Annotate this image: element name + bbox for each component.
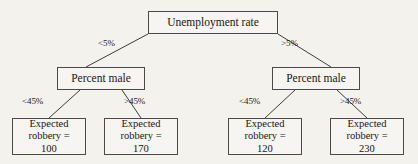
leaf-100-line2: robbery =	[28, 130, 69, 142]
edge-label-right-percent-male-gt-45: >45%	[340, 96, 361, 106]
leaf-expected-robbery-230: Expected robbery = 230	[330, 118, 404, 155]
edge-label-left-percent-male-gt-45: >45%	[124, 96, 145, 106]
edge-root-to-left-percent-male	[86, 34, 148, 67]
leaf-170-value: 170	[120, 143, 161, 155]
leaf-100-value: 100	[28, 143, 69, 155]
leaf-100-line1: Expected	[28, 118, 69, 130]
leaf-expected-robbery-170: Expected robbery = 170	[104, 118, 178, 155]
node-unemployment-rate: Unemployment rate	[148, 11, 278, 34]
leaf-120-value: 120	[244, 143, 285, 155]
leaf-120-line2: robbery =	[244, 130, 285, 142]
leaf-expected-robbery-100: Expected robbery = 100	[12, 118, 86, 155]
node-percent-male-right: Percent male	[272, 67, 360, 90]
edge-left-percent-male-to-leaf-100	[49, 90, 80, 118]
edge-label-unemployment-gt-5: >5%	[281, 38, 298, 48]
leaf-170-line2: robbery =	[120, 130, 161, 142]
node-percent-male-right-label: Percent male	[286, 72, 346, 86]
leaf-230-line1: Expected	[346, 118, 387, 130]
leaf-expected-robbery-120: Expected robbery = 120	[228, 118, 302, 155]
node-percent-male-left-label: Percent male	[71, 72, 131, 86]
edge-label-left-percent-male-lt-45: <45%	[22, 96, 43, 106]
leaf-120-line1: Expected	[244, 118, 285, 130]
edge-right-percent-male-to-leaf-120	[265, 90, 295, 118]
node-percent-male-left: Percent male	[57, 67, 145, 90]
leaf-230-value: 230	[346, 143, 387, 155]
edge-label-right-percent-male-lt-45: <45%	[239, 96, 260, 106]
leaf-230-line2: robbery =	[346, 130, 387, 142]
edge-label-unemployment-lt-5: <5%	[98, 38, 115, 48]
node-unemployment-rate-label: Unemployment rate	[167, 16, 259, 30]
decision-tree-diagram: Unemployment rate Percent male Percent m…	[0, 0, 418, 164]
leaf-170-line1: Expected	[120, 118, 161, 130]
